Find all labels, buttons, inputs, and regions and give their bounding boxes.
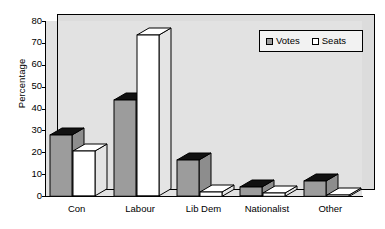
bar-nationalist-votes xyxy=(240,187,262,196)
bar-labour-seats xyxy=(137,35,159,196)
bar-3d-faces xyxy=(137,28,173,198)
legend-swatch-votes-icon xyxy=(266,38,273,45)
bar-chart: Percentage 01020304050607080 VotesSeats … xyxy=(0,0,385,229)
bar-other-votes xyxy=(304,181,326,196)
legend-item-votes[interactable]: Votes xyxy=(266,36,300,46)
legend-label: Seats xyxy=(322,36,346,46)
x-label-labour: Labour xyxy=(108,203,171,214)
legend-swatch-seats-icon xyxy=(312,38,319,45)
bar-3d-faces xyxy=(327,188,363,199)
bar-lib-dem-votes xyxy=(177,160,199,196)
x-label-lib-dem: Lib Dem xyxy=(172,203,235,214)
x-axis-labels: ConLabourLib DemNationalistOther xyxy=(0,203,385,221)
bar-con-votes xyxy=(50,135,72,196)
legend-label: Votes xyxy=(276,36,300,46)
x-label-other: Other xyxy=(299,203,362,214)
bar-3d-faces xyxy=(263,186,299,198)
bar-other-seats xyxy=(327,195,349,197)
bar-con-seats xyxy=(73,151,95,196)
legend-item-seats[interactable]: Seats xyxy=(312,36,346,46)
bar-lib-dem-seats xyxy=(200,192,222,196)
bar-labour-votes xyxy=(114,100,136,196)
chart-legend: VotesSeats xyxy=(259,30,363,52)
bar-nationalist-seats xyxy=(263,193,285,196)
x-label-nationalist: Nationalist xyxy=(235,203,298,214)
x-label-con: Con xyxy=(45,203,108,214)
bar-3d-faces xyxy=(73,144,109,198)
bar-3d-faces xyxy=(200,185,236,198)
